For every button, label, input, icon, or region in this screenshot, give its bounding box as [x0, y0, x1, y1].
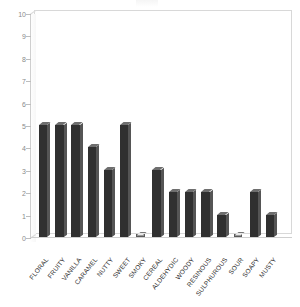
bar-zero-top-face	[235, 232, 245, 235]
bar-front-face	[185, 192, 193, 237]
bar-front-face	[88, 147, 96, 237]
x-tick-label: FLORAL	[28, 256, 50, 281]
bar-front-face	[266, 215, 274, 237]
bar	[185, 192, 193, 237]
bar	[104, 170, 112, 237]
y-tick-label: 8	[22, 55, 26, 62]
y-tick-label: 2	[22, 190, 26, 197]
bar	[39, 125, 47, 237]
bar-front-face	[120, 125, 128, 237]
bar-zero	[136, 234, 144, 237]
bar-chart: 012345678910 FLORALFRUITYVANILLACARAMELN…	[0, 0, 300, 307]
y-tick-label: 6	[22, 100, 26, 107]
chart-title-ghost	[136, 0, 158, 7]
y-tick-mark	[26, 238, 31, 239]
bar	[201, 192, 209, 237]
bar-zero-top-face	[137, 232, 147, 235]
y-tick-label: 3	[22, 167, 26, 174]
bar-front-face	[217, 215, 225, 237]
bar-side-face	[80, 123, 83, 237]
bar-zero	[234, 234, 242, 237]
y-tick-label: 9	[22, 33, 26, 40]
plot-area: 012345678910 FLORALFRUITYVANILLACARAMELN…	[30, 14, 292, 238]
y-tick-label: 5	[22, 123, 26, 130]
bar	[152, 170, 160, 237]
y-tick-label: 0	[22, 235, 26, 242]
bar-front-face	[152, 170, 160, 237]
bar	[266, 215, 274, 237]
bar	[88, 147, 96, 237]
bar-front-face	[55, 125, 63, 237]
bar-front-face	[201, 192, 209, 237]
bar-front-face	[104, 170, 112, 237]
bar-side-face	[226, 212, 229, 237]
bar-side-face	[128, 123, 131, 237]
bar-side-face	[210, 190, 213, 237]
bar-side-face	[64, 123, 67, 237]
bar	[71, 125, 79, 237]
y-tick-label: 10	[18, 11, 26, 18]
bar	[55, 125, 63, 237]
bar-side-face	[112, 167, 115, 237]
y-tick-label: 4	[22, 145, 26, 152]
bar-side-face	[177, 190, 180, 237]
bar-side-face	[47, 123, 50, 237]
bar	[120, 125, 128, 237]
bar-side-face	[274, 212, 277, 237]
bar-side-face	[258, 190, 261, 237]
bar-side-face	[96, 145, 99, 237]
bar-front-face	[39, 125, 47, 237]
y-tick-label: 7	[22, 78, 26, 85]
bar	[250, 192, 258, 237]
bar-front-face	[169, 192, 177, 237]
bar-side-face	[193, 190, 196, 237]
bar	[217, 215, 225, 237]
bar-side-face	[161, 167, 164, 237]
bar-series	[30, 14, 292, 238]
y-tick-label: 1	[22, 212, 26, 219]
bar-front-face	[71, 125, 79, 237]
bar	[169, 192, 177, 237]
bar-front-face	[250, 192, 258, 237]
